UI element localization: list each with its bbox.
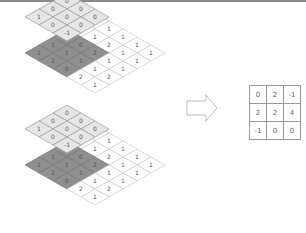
cell-value: 0: [79, 153, 83, 160]
cell-value: 0: [65, 177, 69, 184]
cell-value: 1: [37, 13, 41, 20]
cell-value: 1: [121, 177, 125, 184]
cell-value: 1: [79, 57, 83, 64]
cell-value: 0: [79, 117, 83, 124]
cell-value: 2: [107, 153, 111, 160]
cell-value: 0: [65, 109, 69, 116]
cell-value: 1: [121, 33, 125, 40]
cell-value: 1: [121, 49, 125, 56]
cell-value: 0: [79, 41, 83, 48]
cell-value: 1: [121, 161, 125, 168]
cell-value: 1: [37, 49, 41, 56]
output-cell: -1: [250, 122, 267, 140]
cell-value: 2: [79, 73, 83, 80]
cell-value: 2: [79, 185, 83, 192]
cell-value: 1: [107, 137, 111, 144]
cell-value: -1: [64, 29, 70, 36]
cell-value: 1: [135, 153, 139, 160]
cell-value: 1: [65, 161, 69, 168]
cell-value: 0: [51, 133, 55, 140]
cell-value: 1: [51, 153, 55, 160]
cell-value: 0: [93, 125, 97, 132]
cell-value: 2: [107, 185, 111, 192]
cell-value: 1: [93, 65, 97, 72]
output-cell: 2: [250, 104, 267, 122]
output-row: 2 2 4: [250, 104, 301, 122]
cell-value: 1: [149, 49, 153, 56]
cell-value: 1: [107, 25, 111, 32]
output-matrix: 0 2 -1 2 2 4 -1 0 0: [249, 85, 301, 140]
cell-value: 2: [93, 49, 97, 56]
cell-value: 0: [51, 117, 55, 124]
cell-value: 0: [65, 13, 69, 20]
cell-value: 0: [65, 125, 69, 132]
cell-value: 1: [93, 33, 97, 40]
cell-value: 2: [107, 41, 111, 48]
cell-value: 1: [51, 41, 55, 48]
cell-value: 0: [51, 5, 55, 12]
cell-value: 2: [93, 161, 97, 168]
cell-value: 0: [65, 65, 69, 72]
output-cell: 4: [284, 104, 301, 122]
cell-value: 1: [65, 49, 69, 56]
cell-value: 1: [107, 169, 111, 176]
cell-value: 1: [107, 57, 111, 64]
cell-value: 1: [79, 169, 83, 176]
cell-value: 1: [93, 193, 97, 200]
right-arrow-icon: [187, 95, 217, 121]
cell-value: 1: [135, 169, 139, 176]
cell-value: 0: [93, 13, 97, 20]
cell-value: 1: [135, 57, 139, 64]
output-cell: -1: [284, 86, 301, 104]
cell-value: 2: [107, 73, 111, 80]
cell-value: 1: [37, 161, 41, 168]
cell-value: 0: [51, 21, 55, 28]
cell-value: 1: [135, 41, 139, 48]
cell-value: 1: [93, 81, 97, 88]
cell-value: 1: [121, 145, 125, 152]
cell-value: 0: [79, 133, 83, 140]
cell-value: -1: [64, 141, 70, 148]
output-cell: 0: [250, 86, 267, 104]
output-cell: 0: [284, 122, 301, 140]
cell-value: 1: [93, 145, 97, 152]
cell-value: 1: [121, 65, 125, 72]
cell-value: 2: [51, 169, 55, 176]
output-row: 0 2 -1: [250, 86, 301, 104]
cell-value: 2: [51, 57, 55, 64]
output-cell: 2: [267, 86, 284, 104]
output-row: -1 0 0: [250, 122, 301, 140]
cell-value: 1: [93, 177, 97, 184]
output-cell: 0: [267, 122, 284, 140]
cell-value: 1: [37, 125, 41, 132]
cell-value: 0: [65, 0, 69, 4]
cell-value: 0: [79, 21, 83, 28]
cell-value: 0: [79, 5, 83, 12]
output-cell: 2: [267, 104, 284, 122]
cell-value: 1: [149, 161, 153, 168]
